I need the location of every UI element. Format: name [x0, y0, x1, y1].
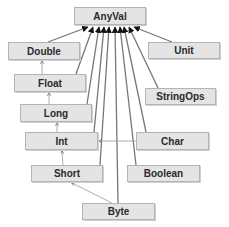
node-label: Float	[38, 78, 62, 89]
node-long: Long	[20, 104, 92, 122]
edge-byte-anyval	[115, 27, 118, 203]
node-short: Short	[31, 165, 103, 182]
edge-double-anyval	[48, 27, 88, 42]
node-anyval: AnyVal	[74, 7, 146, 25]
node-label: Int	[55, 136, 67, 147]
node-label: Long	[44, 108, 68, 119]
node-label: Unit	[174, 45, 193, 56]
node-label: Byte	[108, 206, 130, 217]
edge-char-anyval	[124, 27, 146, 132]
edge-int-anyval	[94, 27, 104, 132]
edge-short-anyval	[100, 27, 109, 165]
node-label: Boolean	[144, 168, 183, 179]
edge-byte-short	[72, 183, 112, 203]
node-int: Int	[25, 132, 98, 150]
node-char: Char	[136, 132, 209, 150]
node-unit: Unit	[148, 42, 220, 59]
node-byte: Byte	[82, 203, 155, 220]
node-float: Float	[14, 74, 86, 92]
node-double: Double	[8, 42, 80, 60]
node-stringops: StringOps	[145, 88, 216, 105]
edge-unit-anyval	[134, 27, 172, 42]
node-label: AnyVal	[93, 11, 126, 22]
node-boolean: Boolean	[127, 165, 200, 182]
node-label: Char	[161, 136, 184, 147]
edge-short-int	[62, 151, 63, 165]
node-label: Short	[54, 168, 80, 179]
node-label: StringOps	[156, 91, 204, 102]
node-label: Double	[27, 46, 61, 57]
